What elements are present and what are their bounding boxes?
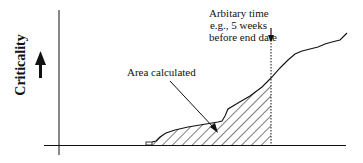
up-arrow-icon [35,51,46,65]
annotation-line: before end date [209,31,267,43]
arbitrary-time-annotation: Arbitary time e.g., 5 weeks before end d… [209,7,267,43]
area-calculated-label: Area calculated [127,66,196,78]
hatched-area [140,70,280,146]
annotation-line: e.g., 5 weeks [209,19,267,31]
diagram-graphics [0,0,363,163]
y-axis-label-container: Criticality [5,0,35,163]
annotation-line: Arbitary time [209,7,267,19]
criticality-diagram: Criticality Arbitary time e.g., 5 weeks … [0,0,363,163]
area-pointer-line [170,81,214,128]
y-axis-label: Criticality [13,34,29,95]
